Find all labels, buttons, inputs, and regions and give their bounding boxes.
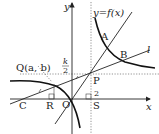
origin-label: O xyxy=(62,99,70,110)
k-denominator: 2 xyxy=(63,66,68,75)
tick-mark xyxy=(39,89,41,92)
x-two-label: 2 xyxy=(94,89,99,98)
y-axis-label: y xyxy=(63,1,70,12)
x-axis-label: x xyxy=(146,101,152,112)
right-angle-S xyxy=(86,94,91,99)
point-S-label: S xyxy=(93,100,100,111)
right-angle-R xyxy=(49,94,54,99)
coordinate-diagram: y x O y=f(x) l A B P Q(a, b) C R S k 2 2 xyxy=(0,0,159,134)
point-A-label: A xyxy=(100,31,109,42)
point-Q-label: Q(a, b) xyxy=(16,62,51,73)
curve-label: y=f(x) xyxy=(92,7,124,18)
point-B-label: B xyxy=(120,49,127,60)
line-l xyxy=(10,50,150,104)
point-C-label: C xyxy=(19,100,27,111)
curve-right-branch xyxy=(95,18,155,68)
point-R-label: R xyxy=(46,100,54,111)
k-numerator: k xyxy=(63,57,68,66)
point-P-label: P xyxy=(93,75,100,86)
line-l-label: l xyxy=(147,44,150,55)
